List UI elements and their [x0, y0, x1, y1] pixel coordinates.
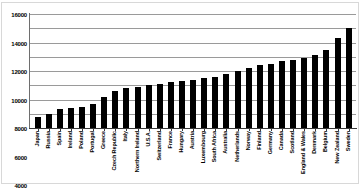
x-label-slot: Russia	[43, 129, 54, 187]
bar	[235, 71, 241, 128]
bar-slot	[221, 14, 232, 128]
bar	[57, 109, 63, 128]
bar-slot	[265, 14, 276, 128]
bar	[68, 108, 74, 128]
x-label-slot: Germany	[265, 129, 276, 187]
x-label-slot: Australia	[221, 129, 232, 187]
x-label-slot: England & Wales	[299, 129, 310, 187]
x-axis-category-label: Scotland	[290, 131, 296, 153]
x-axis-category-label: Hungary	[179, 131, 185, 153]
bar	[112, 91, 118, 128]
x-label-slot: Spain	[54, 129, 65, 187]
x-label-slot: Czech Republic	[110, 129, 121, 187]
x-label-slot: Japan	[32, 129, 43, 187]
bar-slot	[143, 14, 154, 128]
bar-slot	[343, 14, 354, 128]
bar	[101, 97, 107, 128]
bar	[312, 55, 318, 128]
x-axis-labels: JapanRussiaSpainIrelandPolandPortugalGre…	[30, 129, 356, 187]
bar-slot	[165, 14, 176, 128]
bar	[279, 61, 285, 128]
bar-slot	[110, 14, 121, 128]
bar-series	[30, 14, 356, 128]
x-label-slot: France	[165, 129, 176, 187]
bar-slot	[232, 14, 243, 128]
x-axis-category-label: U.S.A.	[146, 131, 152, 147]
x-label-slot: South Africa	[210, 129, 221, 187]
x-axis-category-label: Denmark	[313, 131, 319, 154]
bar-slot	[299, 14, 310, 128]
x-axis-category-label: France	[168, 131, 174, 148]
x-label-slot: Netherlands	[232, 129, 243, 187]
bar-slot	[132, 14, 143, 128]
bar-slot	[276, 14, 287, 128]
bar-slot	[65, 14, 76, 128]
bar-slot	[76, 14, 87, 128]
x-axis-category-label: Austria	[190, 131, 196, 149]
x-axis-category-label: Czech Republic	[113, 131, 119, 171]
bar	[301, 58, 307, 128]
x-axis-category-label: Sweden	[346, 131, 352, 151]
x-label-slot: Hungary	[176, 129, 187, 187]
y-axis-tick-label: 8000	[14, 126, 27, 132]
bar	[223, 74, 229, 128]
x-axis-category-label: Greece	[101, 131, 107, 149]
bar-slot	[99, 14, 110, 128]
bar	[190, 80, 196, 128]
x-axis-category-label: Russia	[46, 131, 52, 148]
bar	[201, 78, 207, 128]
x-label-slot: Luxembourg	[199, 129, 210, 187]
bar	[79, 107, 85, 128]
x-label-slot: U.S.A.	[143, 129, 154, 187]
y-axis-tick-label: 6000	[14, 155, 27, 161]
x-axis-category-label: South Africa	[213, 131, 219, 162]
x-axis-category-label: Belgium	[324, 131, 330, 152]
x-label-slot: Norway	[243, 129, 254, 187]
bar-slot	[288, 14, 299, 128]
bar-slot	[210, 14, 221, 128]
x-label-slot: Ireland	[65, 129, 76, 187]
bar	[323, 50, 329, 128]
bar-slot	[321, 14, 332, 128]
bar-slot	[54, 14, 65, 128]
y-axis-tick-label: 16000	[11, 12, 27, 18]
x-label-slot: Belgium	[321, 129, 332, 187]
x-axis-category-label: Germany	[268, 131, 274, 154]
x-axis-category-label: Canada	[279, 131, 285, 150]
bar	[246, 68, 252, 128]
bar	[35, 117, 41, 128]
bar-slot	[43, 14, 54, 128]
x-axis-category-label: Japan	[35, 131, 41, 146]
x-axis-category-label: Spain	[57, 131, 63, 145]
x-label-slot: Sweden	[343, 129, 354, 187]
bar-slot	[32, 14, 43, 128]
bar-slot	[310, 14, 321, 128]
x-label-slot: New Zealand	[332, 129, 343, 187]
x-label-slot: Austria	[188, 129, 199, 187]
x-axis-category-label: Norway	[246, 131, 252, 150]
x-axis-category-label: Northern Ireland	[135, 131, 141, 172]
bar-slot	[243, 14, 254, 128]
bar	[268, 64, 274, 128]
x-axis-category-label: Portugal	[90, 131, 96, 153]
bar	[290, 60, 296, 128]
bar-slot	[332, 14, 343, 128]
bar	[135, 87, 141, 128]
bar-chart: 0200040006000800010000120001400016000 Ja…	[0, 0, 362, 188]
x-label-slot: Canada	[276, 129, 287, 187]
x-axis-category-label: New Zealand	[335, 131, 341, 164]
bar	[257, 65, 263, 128]
y-axis-tick-label: 10000	[11, 98, 27, 104]
x-label-slot: Denmark	[310, 129, 321, 187]
x-axis-category-label: Luxembourg	[201, 131, 207, 163]
y-axis-tick-label: 4000	[14, 183, 27, 188]
bar-slot	[121, 14, 132, 128]
x-label-slot: Northern Ireland	[132, 129, 143, 187]
bar	[157, 84, 163, 128]
x-label-slot: Scotland	[288, 129, 299, 187]
x-label-slot: Italy	[121, 129, 132, 187]
x-axis-category-label: Ireland	[68, 131, 74, 148]
bar-slot	[188, 14, 199, 128]
bar	[179, 81, 185, 128]
bar-slot	[254, 14, 265, 128]
